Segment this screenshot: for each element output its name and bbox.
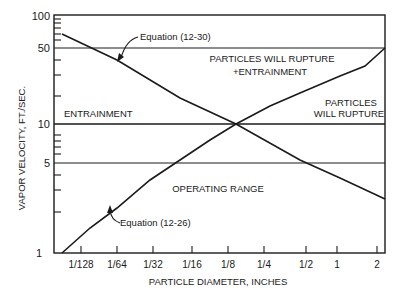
arrowhead-12-26 [107, 205, 113, 213]
x-label-1-32: 1/32 [143, 259, 163, 270]
y-axis-title: VAPOR VELOCITY, FT./SEC. [16, 86, 27, 210]
region-label-rupture-entrainment-1: PARTICLES WILL RUPTURE [210, 53, 335, 64]
x-ticks [81, 246, 377, 253]
x-label-2: 2 [374, 259, 380, 270]
x-label-1-4: 1/4 [257, 259, 271, 270]
chart-canvas: 100 50 10 5 1 1/128 1/64 1/32 1/16 1/8 1… [0, 0, 396, 293]
x-label-1: 1 [334, 259, 340, 270]
y-label-1: 1 [36, 247, 42, 259]
callout-equation-12-26: Equation (12-26) [120, 217, 191, 228]
y-label-100: 100 [32, 10, 50, 22]
arrowhead-12-30 [117, 53, 124, 62]
x-label-1-128: 1/128 [68, 259, 93, 270]
x-label-1-16: 1/16 [182, 259, 202, 270]
y-label-5: 5 [44, 157, 50, 169]
y-label-50: 50 [38, 42, 50, 54]
curve-equation-12-26 [62, 48, 385, 253]
x-axis-title: PARTICLE DIAMETER, INCHES [149, 276, 287, 287]
x-label-1-2: 1/2 [299, 259, 313, 270]
region-label-operating-range: OPERATING RANGE [172, 183, 264, 194]
region-label-entrainment: ENTRAINMENT [64, 108, 133, 119]
callout-equation-12-30: Equation (12-30) [140, 31, 211, 42]
region-label-will-rupture: WILL RUPTURE [314, 108, 384, 119]
y-label-10: 10 [38, 118, 50, 130]
x-label-1-8: 1/8 [221, 259, 235, 270]
region-label-rupture-entrainment-2: +ENTRAINMENT [233, 66, 307, 77]
region-label-particles: PARTICLES [325, 97, 377, 108]
x-label-1-64: 1/64 [107, 259, 127, 270]
